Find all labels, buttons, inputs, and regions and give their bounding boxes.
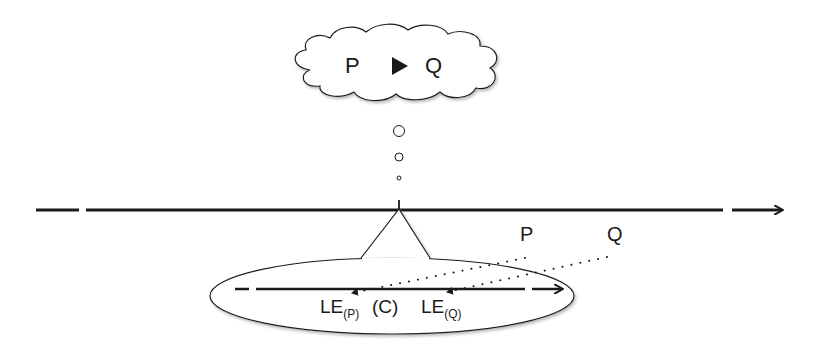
thought-bubble-medium (395, 153, 403, 161)
cloud-label-p: P (345, 55, 360, 77)
label-p: P (520, 224, 533, 244)
label-le-q: LE(Q) (421, 297, 462, 320)
thought-bubble-small (397, 176, 401, 180)
label-le-p-subscript: (P) (343, 307, 359, 321)
label-c: (C) (372, 297, 398, 316)
label-le-p: LE(P) (320, 297, 359, 320)
thought-bubbles (394, 126, 405, 181)
diagram-canvas (0, 0, 818, 359)
thought-bubble-large (394, 126, 405, 137)
label-q: Q (607, 224, 623, 244)
label-le-q-subscript: (Q) (444, 307, 461, 321)
cloud-label-q: Q (425, 55, 442, 77)
